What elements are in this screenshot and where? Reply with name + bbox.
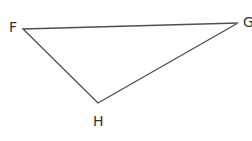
- vertex-label-g: G: [243, 14, 252, 30]
- triangle-diagram: F G H: [0, 0, 252, 141]
- triangle-fgh: [23, 23, 238, 103]
- vertex-label-f: F: [9, 19, 17, 35]
- vertex-label-h: H: [93, 113, 104, 129]
